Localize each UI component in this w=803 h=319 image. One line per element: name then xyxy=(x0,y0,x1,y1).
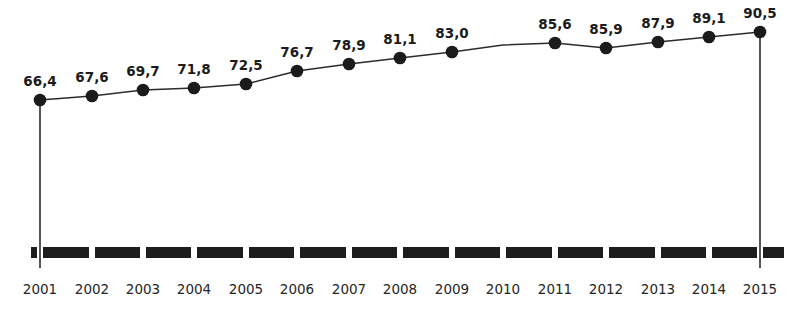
data-point-value-label: 85,9 xyxy=(589,21,622,37)
data-point-marker[interactable] xyxy=(240,78,253,91)
x-axis-tick-label: 2010 xyxy=(486,281,520,297)
axis-bar-segment xyxy=(661,247,706,258)
x-axis-tick-label: 2001 xyxy=(23,281,57,297)
data-point-value-label: 72,5 xyxy=(229,57,262,73)
data-point-marker[interactable] xyxy=(394,52,407,65)
x-axis-tick-label: 2002 xyxy=(75,281,109,297)
x-axis-tick-label: 2007 xyxy=(332,281,366,297)
data-point-marker[interactable] xyxy=(137,84,150,97)
x-axis-tick-label: 2006 xyxy=(280,281,314,297)
x-axis-tick-label: 2015 xyxy=(743,281,777,297)
axis-bar-segment xyxy=(352,247,397,258)
axis-bar-segment xyxy=(95,247,140,258)
axis-bar-segment xyxy=(455,247,500,258)
axis-bar-segment xyxy=(146,247,191,258)
data-point-marker[interactable] xyxy=(188,82,201,95)
data-point-marker[interactable] xyxy=(291,65,304,78)
data-point-value-label: 69,7 xyxy=(126,63,159,79)
x-axis-tick-label: 2012 xyxy=(589,281,623,297)
data-point-value-label: 67,6 xyxy=(75,69,108,85)
data-point-value-label: 90,5 xyxy=(743,5,776,21)
data-point-marker[interactable] xyxy=(446,46,459,59)
data-point-value-label: 89,1 xyxy=(692,10,725,26)
data-point-marker[interactable] xyxy=(86,90,99,103)
x-axis-tick-label: 2011 xyxy=(538,281,572,297)
data-point-marker[interactable] xyxy=(343,58,356,71)
axis-bar-segment xyxy=(712,247,757,258)
axis-bar-segment xyxy=(609,247,655,258)
axis-bar-segment xyxy=(300,247,346,258)
data-point-marker[interactable] xyxy=(600,42,613,55)
x-axis-tick-label: 2003 xyxy=(126,281,160,297)
data-point-value-label: 81,1 xyxy=(383,31,416,47)
x-axis-tick-label: 2004 xyxy=(177,281,211,297)
axis-bar-segment xyxy=(558,247,603,258)
axis-bar-segment xyxy=(31,247,37,258)
data-point-marker[interactable] xyxy=(652,36,665,49)
data-point-value-label: 83,0 xyxy=(435,25,468,41)
x-axis-tick-label: 2013 xyxy=(641,281,675,297)
axis-bar-segment xyxy=(43,247,89,258)
line-chart: 66,467,669,771,872,576,778,981,183,085,6… xyxy=(0,0,803,319)
data-point-value-label: 66,4 xyxy=(23,73,56,89)
axis-bar-segment xyxy=(506,247,552,258)
data-point-marker[interactable] xyxy=(34,94,47,107)
x-axis-tick-label: 2008 xyxy=(383,281,417,297)
data-point-value-label: 76,7 xyxy=(280,44,313,60)
x-axis-tick-label: 2005 xyxy=(229,281,263,297)
axis-bar-segment xyxy=(763,247,784,258)
x-axis-tick-label: 2009 xyxy=(435,281,469,297)
axis-bar-group xyxy=(31,247,784,258)
data-point-value-label: 87,9 xyxy=(641,15,674,31)
chart-plot-area xyxy=(0,0,803,319)
data-point-marker[interactable] xyxy=(549,37,562,50)
axis-bar-segment xyxy=(197,247,243,258)
data-point-value-label: 78,9 xyxy=(332,37,365,53)
x-axis-tick-label: 2014 xyxy=(692,281,726,297)
data-point-marker[interactable] xyxy=(703,31,716,44)
axis-bar-segment xyxy=(249,247,294,258)
data-point-marker[interactable] xyxy=(754,26,767,39)
axis-bar-segment xyxy=(403,247,449,258)
data-point-value-label: 85,6 xyxy=(538,16,571,32)
data-point-value-label: 71,8 xyxy=(177,61,210,77)
